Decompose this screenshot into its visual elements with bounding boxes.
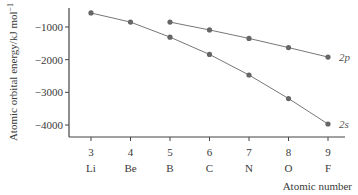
y-tick-label: −4000 <box>35 119 64 131</box>
orbital-energy-chart: −1000−2000−3000−40003Li4Be5B6C7N8O9F 2s2… <box>0 0 358 195</box>
y-tick-label: −3000 <box>35 86 64 98</box>
x-tick-label: 5 <box>167 146 173 158</box>
data-point <box>246 72 251 77</box>
data-point <box>286 45 291 50</box>
data-point <box>207 52 212 57</box>
x-tick-label: 7 <box>246 146 252 158</box>
data-point <box>128 20 133 25</box>
axes: −1000−2000−3000−40003Li4Be5B6C7N8O9F <box>35 8 345 174</box>
data-point <box>246 36 251 41</box>
y-tick-label: −2000 <box>35 54 64 66</box>
element-label: C <box>206 162 213 174</box>
x-tick-label: 4 <box>128 146 134 158</box>
series-label-2s: 2s <box>339 118 349 130</box>
element-label: Li <box>86 162 96 174</box>
data-point <box>286 96 291 101</box>
data-point <box>325 121 330 126</box>
element-label: Be <box>124 162 136 174</box>
x-tick-label: 9 <box>325 146 331 158</box>
data-point <box>207 27 212 32</box>
y-axis-title: Atomic orbital energy/kJ mol−1 <box>6 3 19 141</box>
y-tick-label: −1000 <box>35 21 64 33</box>
data-point <box>325 54 330 59</box>
element-label: N <box>245 162 253 174</box>
element-label: B <box>166 162 173 174</box>
x-tick-label: 8 <box>286 146 292 158</box>
element-label: F <box>325 162 331 174</box>
x-tick-label: 3 <box>88 146 94 158</box>
data-point <box>88 10 93 15</box>
x-tick-label: 6 <box>207 146 213 158</box>
x-axis-title: Atomic number <box>283 180 353 192</box>
data-point <box>167 20 172 25</box>
series-label-2p: 2p <box>339 51 351 63</box>
element-label: O <box>285 162 293 174</box>
data-point <box>167 35 172 40</box>
series-lines <box>88 10 330 126</box>
